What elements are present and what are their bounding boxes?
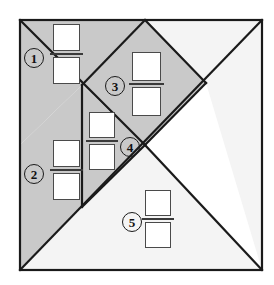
marker-2[interactable]: 2 (24, 164, 44, 184)
square-top[interactable] (53, 140, 80, 167)
square-top[interactable] (145, 190, 171, 216)
square-bottom[interactable] (89, 144, 115, 170)
square-pair-separator (142, 218, 174, 220)
square-bottom[interactable] (145, 222, 171, 248)
square-bottom[interactable] (53, 173, 80, 200)
square-pair-separator (86, 140, 118, 142)
marker-4[interactable]: 4 (120, 137, 140, 157)
square-pair-2[interactable] (50, 140, 83, 200)
square-pair-separator (129, 83, 164, 85)
marker-3[interactable]: 3 (105, 76, 125, 96)
square-pair-separator (50, 53, 83, 55)
diagram-canvas: 12345 (0, 0, 274, 285)
square-pair-5[interactable] (142, 190, 174, 248)
square-top[interactable] (132, 52, 161, 81)
square-pair-4[interactable] (86, 112, 118, 170)
square-pair-1[interactable] (50, 24, 83, 84)
square-top[interactable] (53, 24, 80, 51)
square-bottom[interactable] (53, 57, 80, 84)
square-pair-separator (50, 169, 83, 171)
square-bottom[interactable] (132, 87, 161, 116)
square-top[interactable] (89, 112, 115, 138)
square-pair-3[interactable] (129, 52, 164, 116)
marker-1[interactable]: 1 (24, 48, 44, 68)
marker-5[interactable]: 5 (122, 212, 142, 232)
